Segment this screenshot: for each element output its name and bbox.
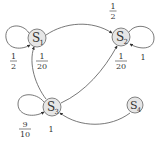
node-s3-subscript: 3: [55, 108, 59, 116]
edge-s3-s2: [61, 46, 117, 103]
edge-s2-s2: [129, 26, 154, 48]
label-s4-s3: 1: [48, 125, 53, 134]
svg-text:1: 1: [39, 52, 44, 61]
node-s4-subscript: 4: [137, 106, 141, 114]
label-s3-s3: 9 10: [19, 120, 31, 139]
svg-text:1: 1: [110, 2, 115, 11]
svg-text:10: 10: [20, 130, 30, 139]
edge-s1-s2: [46, 24, 112, 35]
svg-text:20: 20: [116, 62, 126, 71]
svg-text:1: 1: [118, 52, 123, 61]
edge-s4-s3: [60, 113, 130, 124]
node-s2: S 2: [112, 28, 130, 46]
markov-chain-diagram: S 1 S 2 S 3 S 4 1 2 1 2 1 1 20 1 20: [0, 0, 158, 141]
label-s3-s2: 1 20: [115, 52, 127, 71]
label-s1-s2: 1 2: [110, 2, 117, 21]
svg-text:1: 1: [11, 52, 16, 61]
edge-s1-s1: [6, 26, 30, 48]
svg-text:20: 20: [37, 62, 47, 71]
label-s1-s1: 1 2: [10, 52, 17, 71]
node-s1-subscript: 1: [40, 39, 44, 47]
edge-s3-s3: [18, 95, 44, 116]
label-s2-s2: 1: [140, 53, 145, 62]
node-s1: S 1: [28, 29, 46, 47]
node-s3: S 3: [43, 98, 61, 116]
svg-text:2: 2: [11, 62, 16, 71]
node-s2-subscript: 2: [124, 38, 128, 46]
svg-text:9: 9: [22, 120, 27, 129]
label-s3-s1: 1 20: [36, 52, 48, 71]
node-s4: S 4: [127, 97, 143, 114]
svg-text:2: 2: [110, 12, 115, 21]
